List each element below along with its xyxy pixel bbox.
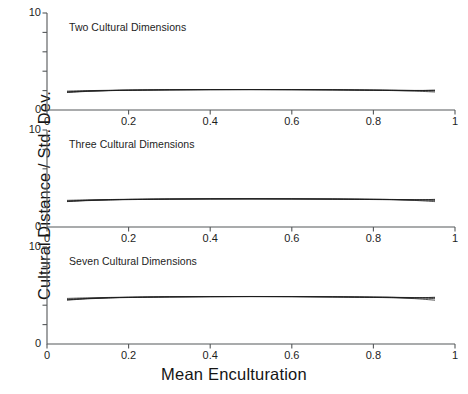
x-tick-label: 1 (435, 349, 468, 361)
y-tick-label: 0 (11, 220, 41, 232)
panel-three-cultural-dimensions: 01000.20.40.60.81Three Cultural Dimensio… (0, 117, 468, 249)
x-tick-label: 0 (27, 349, 67, 361)
data-line (67, 297, 434, 300)
figure-canvas: Cultural Distance / Std. Dev. 01000.20.4… (0, 0, 468, 394)
panel-title: Two Cultural Dimensions (69, 21, 186, 33)
x-axis-label: Mean Enculturation (0, 365, 468, 384)
y-tick-label: 10 (11, 240, 41, 252)
panel-title: Seven Cultural Dimensions (69, 255, 197, 267)
y-tick-label: 0 (11, 337, 41, 349)
x-tick-label: 0.8 (353, 349, 393, 361)
panel-two-cultural-dimensions: 01000.20.40.60.81Two Cultural Dimensions (0, 0, 468, 132)
data-line (67, 90, 434, 93)
panel-seven-cultural-dimensions: 01000.20.40.60.81Seven Cultural Dimensio… (0, 234, 468, 366)
plot-area (0, 234, 468, 366)
panel-title: Three Cultural Dimensions (69, 138, 195, 150)
y-tick-label: 10 (11, 6, 41, 18)
plot-area (0, 0, 468, 132)
y-tick-label: 10 (11, 123, 41, 135)
x-tick-label: 0.4 (190, 349, 230, 361)
y-tick-label: 0 (11, 103, 41, 115)
x-tick-label: 0.2 (109, 349, 149, 361)
plot-area (0, 117, 468, 249)
x-tick-label: 0.6 (272, 349, 312, 361)
